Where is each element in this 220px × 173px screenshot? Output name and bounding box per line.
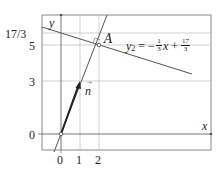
x-tick-0: 0 — [57, 154, 63, 166]
equation-y2-label: y2 = − 1 3 x + 17 3 — [126, 38, 190, 53]
y-tick-3: 3 — [29, 76, 35, 88]
x-tick-2: 2 — [95, 154, 101, 166]
origin-point — [59, 132, 63, 136]
x-tick-1: 1 — [76, 154, 82, 166]
y-tick-0: 0 — [29, 129, 35, 141]
y-tick-5: 5 — [29, 40, 35, 52]
vector-arrow-icon: → — [85, 78, 93, 86]
x-axis-arrow-icon — [210, 133, 213, 136]
point-a-label: A — [104, 33, 113, 45]
y-tick-17-3: 17/3 — [5, 28, 26, 40]
point-a — [97, 43, 101, 47]
vector-n-label: → n — [85, 85, 91, 97]
x-axis-label: x — [202, 120, 207, 132]
y-axis-label: y — [49, 17, 54, 29]
vector-n — [61, 84, 79, 134]
y-axis-arrow-icon — [60, 14, 63, 17]
